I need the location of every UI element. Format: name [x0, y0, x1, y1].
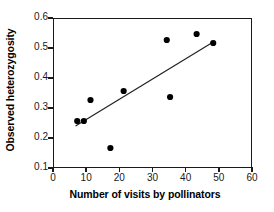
trendline-segment [76, 41, 215, 126]
x-tick-label: 40 [171, 172, 201, 183]
y-axis-title: Observed heterozygosity [0, 0, 20, 180]
x-tick-label: 0 [38, 172, 68, 183]
data-point [74, 118, 80, 124]
plot-area [53, 18, 252, 168]
x-tick-label: 20 [104, 172, 134, 183]
x-tick-label: 10 [71, 172, 101, 183]
y-tick-label: 0.2 [14, 131, 48, 142]
y-tick-label: 0.4 [14, 71, 48, 82]
x-tick-label: 50 [204, 172, 234, 183]
data-point [210, 40, 216, 46]
plot-canvas [54, 19, 253, 169]
data-point [81, 118, 87, 124]
y-tick-label: 0.5 [14, 41, 48, 52]
trendline [76, 41, 215, 126]
data-point [167, 94, 173, 100]
data-point [121, 88, 127, 94]
data-point [194, 31, 200, 37]
x-axis-title: Number of visits by pollinators [20, 188, 270, 200]
data-points [74, 31, 216, 151]
y-tick-label: 0.6 [14, 11, 48, 22]
data-point [87, 97, 93, 103]
x-tick-label: 60 [237, 172, 267, 183]
y-tick-label: 0.1 [14, 161, 48, 172]
x-tick-label: 30 [138, 172, 168, 183]
scatter-chart-figure: Observed heterozygosity 0.10.20.30.40.50… [0, 0, 274, 212]
y-tick-label: 0.3 [14, 101, 48, 112]
data-point [107, 145, 113, 151]
data-point [164, 37, 170, 43]
